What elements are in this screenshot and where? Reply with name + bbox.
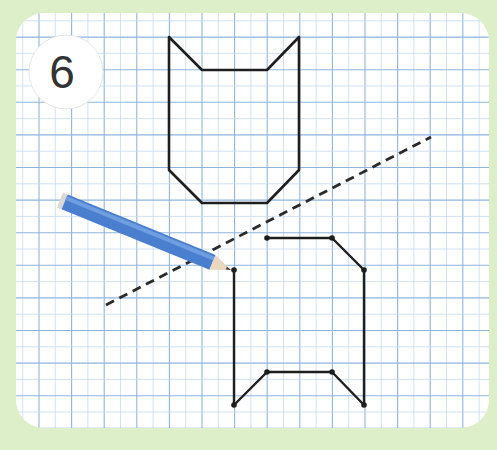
puzzle-number: 6 bbox=[49, 46, 75, 98]
worksheet: 6 bbox=[0, 0, 497, 450]
puzzle-number-badge: 6 bbox=[29, 35, 103, 109]
grid-drawing: 6 bbox=[0, 0, 497, 450]
